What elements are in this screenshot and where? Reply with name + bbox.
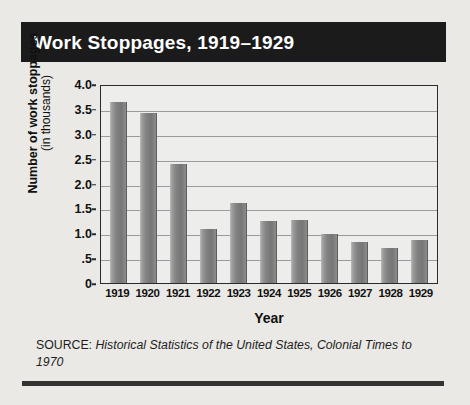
y-tick-mark <box>92 234 96 236</box>
x-tick-label: 1927 <box>348 287 372 299</box>
source-citation: Historical Statistics of the United Stat… <box>36 338 412 369</box>
y-tick-label: 1.5 <box>75 202 92 216</box>
y-tick-label: 2.0 <box>75 178 92 192</box>
x-tick-label: 1925 <box>287 287 311 299</box>
y-tick-mark <box>92 134 96 136</box>
x-tick-label: 1924 <box>257 287 281 299</box>
y-tick-label: .5 <box>82 252 92 266</box>
x-axis-ticks: 1919192019211922192319241925192619271928… <box>100 287 438 303</box>
x-tick-label: 1928 <box>378 287 402 299</box>
x-axis-title: Year <box>100 310 438 326</box>
y-tick-label: 2.5 <box>75 153 92 167</box>
y-tick-mark <box>92 84 96 86</box>
y-tick-mark <box>92 258 96 260</box>
x-tick-label: 1923 <box>227 287 251 299</box>
plot-area <box>100 85 438 284</box>
bar-1926 <box>321 234 338 283</box>
y-axis-title-sub: (in thousands) <box>40 75 53 151</box>
bar-1920 <box>140 113 157 283</box>
bar-series <box>101 86 437 283</box>
bar-1919 <box>110 102 127 283</box>
y-tick-label: 0 <box>85 277 92 291</box>
x-tick-label: 1920 <box>136 287 160 299</box>
y-tick-label: 3.0 <box>75 128 92 142</box>
x-tick-label: 1926 <box>318 287 342 299</box>
chart-title-bar: Work Stoppages, 1919–1929 <box>21 22 446 62</box>
bar-1922 <box>200 229 217 283</box>
page-title: Work Stoppages, 1919–1929 <box>21 33 294 52</box>
bar-1923 <box>230 203 247 283</box>
source-note: SOURCE: Historical Statistics of the Uni… <box>36 337 436 370</box>
bar-1927 <box>351 242 368 283</box>
bottom-divider <box>22 381 444 386</box>
chart-figure: Work Stoppages, 1919–1929 Number of work… <box>0 0 470 405</box>
y-tick-mark <box>92 283 96 285</box>
bar-1921 <box>170 164 187 283</box>
y-tick-mark <box>92 184 96 186</box>
y-axis-ticks: 0.51.01.52.02.53.03.54.0 <box>58 85 96 284</box>
y-tick-label: 3.5 <box>75 103 92 117</box>
x-tick-label: 1929 <box>409 287 433 299</box>
source-label: SOURCE: <box>36 338 92 352</box>
y-tick-mark <box>92 109 96 111</box>
bar-1928 <box>381 248 398 283</box>
x-tick-label: 1921 <box>166 287 190 299</box>
x-tick-label: 1922 <box>196 287 220 299</box>
bar-1925 <box>291 220 308 283</box>
y-tick-label: 4.0 <box>75 78 92 92</box>
bar-1929 <box>411 240 428 283</box>
y-tick-mark <box>92 209 96 211</box>
bar-1924 <box>260 221 277 283</box>
y-tick-label: 1.0 <box>75 227 92 241</box>
y-tick-mark <box>92 159 96 161</box>
x-tick-label: 1919 <box>105 287 129 299</box>
